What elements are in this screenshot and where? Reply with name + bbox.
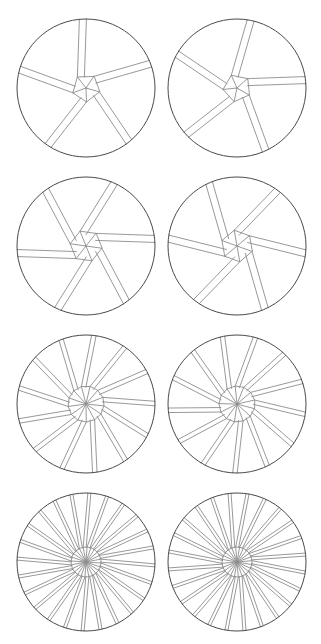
tiling-lines xyxy=(18,335,155,472)
spiral-arm-7-0 xyxy=(50,576,81,621)
spiral-arm-4-1 xyxy=(248,84,306,86)
spiral-arm-1-1 xyxy=(55,257,86,307)
spiral-arm-7-1 xyxy=(195,350,225,393)
spiral-arm-19-1 xyxy=(93,505,124,550)
spiral-arm-4-0 xyxy=(247,77,305,79)
spiral-arm-1-0 xyxy=(250,416,269,465)
spiral-arm-23-1 xyxy=(251,564,305,574)
spiral-arm-8-0 xyxy=(182,573,227,603)
spiral-arm-12-1 xyxy=(102,402,155,406)
tiling-lines xyxy=(17,182,155,311)
figure-4b xyxy=(156,482,316,642)
spiral-arm-2-1 xyxy=(179,51,227,84)
core-spoke-0 xyxy=(86,246,102,248)
spiral-arm-23-0 xyxy=(252,561,305,571)
spiral-arm-9-0 xyxy=(81,335,91,386)
spiral-arm-17-1 xyxy=(239,494,249,548)
spiral-arm-2-1 xyxy=(169,235,227,249)
spiral-arm-3-0 xyxy=(43,192,70,244)
spiral-arm-0-1 xyxy=(245,253,261,310)
tiling-lines xyxy=(168,493,305,630)
core-spoke-5 xyxy=(237,236,249,246)
spiral-arm-2-0 xyxy=(175,57,223,89)
spiral-arm-3-0 xyxy=(205,422,234,465)
core-spoke-4 xyxy=(80,231,86,246)
core-spoke-3 xyxy=(77,77,86,88)
spiral-arm-20-0 xyxy=(94,515,136,550)
spiral-arm-2-0 xyxy=(18,257,76,259)
tiling-lines xyxy=(17,493,155,631)
tiling-lines xyxy=(168,336,305,473)
spiral-arm-8-1 xyxy=(63,339,78,390)
spiral-arm-11-0 xyxy=(169,553,222,563)
spiral-arm-1-0 xyxy=(101,414,127,459)
spiral-arm-4-0 xyxy=(80,182,111,232)
row-3 xyxy=(0,324,321,484)
figure-2a-svg xyxy=(5,166,165,326)
spiral-arm-21-0 xyxy=(249,536,300,554)
spiral-arm-12-0 xyxy=(103,397,155,401)
spiral-arm-1-0 xyxy=(189,102,234,138)
row-2 xyxy=(0,166,321,326)
tiling-lines xyxy=(168,182,306,311)
spiral-arm-20-0 xyxy=(247,520,292,550)
spiral-arm-4-1 xyxy=(33,416,75,448)
spiral-arm-5-1 xyxy=(96,240,155,242)
figure-4a xyxy=(5,482,165,642)
spiral-arm-3-0 xyxy=(231,20,247,75)
spiral-arm-10-1 xyxy=(247,355,286,390)
spiral-arm-0-0 xyxy=(254,409,294,443)
spiral-arm-5-0 xyxy=(228,577,238,630)
spiral-arm-2-0 xyxy=(19,73,73,93)
core-spoke-3 xyxy=(231,75,237,88)
spiral-arm-2-1 xyxy=(17,250,76,252)
spiral-arm-20-1 xyxy=(248,522,293,553)
spiral-arm-13-1 xyxy=(29,523,74,554)
spiral-arm-4-0 xyxy=(180,419,226,444)
spiral-arm-0-1 xyxy=(96,252,124,304)
spiral-arm-2-0 xyxy=(168,242,225,256)
figure-1a xyxy=(5,8,165,168)
spiral-arm-5-1 xyxy=(168,408,221,409)
spiral-arm-4-0 xyxy=(36,420,78,452)
core-spoke-5 xyxy=(86,233,96,246)
spiral-arm-0-1 xyxy=(251,412,291,447)
spiral-arm-1-0 xyxy=(51,102,87,147)
spiral-arm-6-1 xyxy=(19,386,69,402)
spiral-arm-6-0 xyxy=(172,380,219,404)
spiral-arm-14-0 xyxy=(39,512,74,554)
figure-1b-svg xyxy=(156,8,316,168)
spiral-arm-3-1 xyxy=(212,182,228,239)
spiral-arm-5-1 xyxy=(19,410,71,419)
spiral-arm-3-1 xyxy=(84,19,86,77)
core-spoke-2 xyxy=(73,88,86,93)
spiral-arm-7-1 xyxy=(36,357,73,395)
spiral-arm-1-1 xyxy=(194,257,235,300)
spiral-arm-14-1 xyxy=(197,505,228,550)
spiral-arm-0-1 xyxy=(94,96,127,144)
core-spoke-2 xyxy=(225,246,237,256)
spiral-arm-7-1 xyxy=(47,574,78,619)
spiral-arm-2-1 xyxy=(246,573,277,618)
spiral-arm-6-1 xyxy=(208,575,232,624)
spiral-arm-8-1 xyxy=(180,571,225,602)
spiral-arm-3-1 xyxy=(48,188,76,240)
spiral-arm-1-1 xyxy=(97,416,124,462)
figure-2a xyxy=(5,166,165,326)
spiral-arm-5-1 xyxy=(225,576,235,630)
spiral-arm-3-0 xyxy=(77,19,79,77)
figure-1a-svg xyxy=(5,8,165,168)
core-spoke-3 xyxy=(70,244,86,246)
spiral-arm-1-1 xyxy=(98,569,143,600)
spiral-arm-0-0 xyxy=(99,92,131,140)
spiral-arm-0-1 xyxy=(102,410,147,438)
core-spoke-1 xyxy=(237,246,240,262)
figure-sheet xyxy=(0,0,321,644)
core-spoke-0 xyxy=(237,246,252,251)
spiral-arm-15-0 xyxy=(211,498,229,549)
spiral-arm-5-0 xyxy=(96,233,154,235)
spiral-arm-7-0 xyxy=(191,353,221,396)
figure-3a-svg xyxy=(5,324,165,484)
spiral-arm-9-1 xyxy=(86,336,96,388)
spiral-arm-5-1 xyxy=(248,243,306,257)
